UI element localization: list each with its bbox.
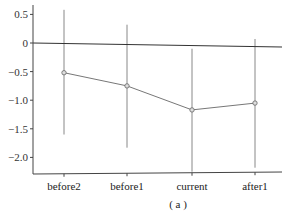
- y-tick-label: 0: [23, 37, 29, 49]
- y-axis-ticks: 0.50−0.5−1.0−1.5−2.0: [8, 8, 33, 163]
- data-point-marker: [62, 71, 66, 75]
- x-axis-ticks: before2before1currentafter1: [47, 172, 268, 192]
- y-tick-label: −1.5: [8, 123, 28, 135]
- error-bars: [64, 10, 255, 172]
- data-point-marker: [253, 101, 257, 105]
- figure-caption: ( a ): [169, 198, 187, 211]
- zero-reference-line: [33, 43, 282, 47]
- x-category-label: after1: [242, 180, 268, 192]
- series-line: [64, 73, 255, 110]
- y-tick-label: −2.0: [8, 151, 28, 163]
- x-category-label: before2: [47, 180, 81, 192]
- x-category-label: current: [176, 180, 207, 192]
- chart: 0.50−0.5−1.0−1.5−2.0 before2before1curre…: [0, 0, 294, 219]
- y-tick-label: 0.5: [14, 8, 28, 20]
- data-point-marker: [190, 108, 194, 112]
- data-point-marker: [125, 84, 129, 88]
- y-tick-label: −0.5: [8, 66, 28, 78]
- x-axis: [33, 172, 282, 174]
- y-tick-label: −1.0: [8, 94, 28, 106]
- x-category-label: before1: [110, 180, 144, 192]
